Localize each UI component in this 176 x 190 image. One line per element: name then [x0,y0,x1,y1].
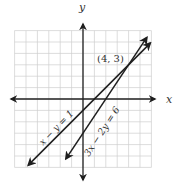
line-label-3x-minus-2y: 3x − 2y = 6 [81,104,121,158]
coordinate-graph: x y (4, 3) x − y = 1 3x − 2y = 6 [0,0,176,190]
intersection-label: (4, 3) [97,53,124,64]
y-axis-label: y [78,1,86,14]
x-axis-label: x [166,93,173,106]
line-label-x-minus-y: x − y = 1 [37,108,76,148]
